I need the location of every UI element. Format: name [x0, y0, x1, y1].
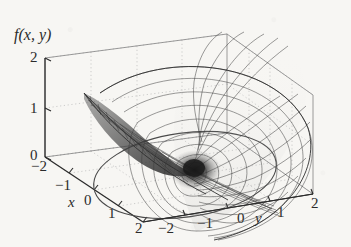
z-tick-label: 2 [30, 50, 38, 65]
x-tick-label: 0 [84, 193, 92, 208]
y-tick-label: −1 [197, 216, 213, 231]
x-axis-label: x [68, 195, 75, 210]
funnel-center [183, 159, 205, 177]
x-tick-label: −1 [55, 178, 71, 193]
y-tick-label: 2 [311, 196, 319, 211]
z-tick-label: 1 [30, 101, 38, 116]
x-tick-label: 1 [108, 206, 116, 221]
y-axis-label: y [255, 211, 262, 226]
y-tick-label: −2 [158, 221, 174, 236]
x-tick-label: −2 [31, 159, 47, 174]
y-tick-label: 1 [277, 205, 285, 220]
y-tick-label: 0 [237, 211, 245, 226]
surface-plot-figure [0, 0, 351, 247]
x-tick-label: 2 [135, 221, 143, 236]
z-axis-label: f(x, y) [14, 26, 51, 44]
